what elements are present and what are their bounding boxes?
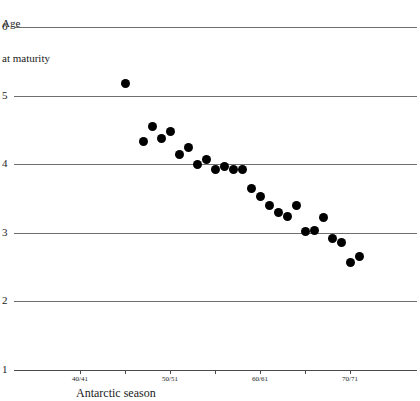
data-point [328,234,337,243]
data-point [337,238,346,247]
y-tick-label-2: 2 [2,294,14,306]
gridline-y-6 [14,27,417,28]
x-tick-label-70-71: 70/71 [342,375,358,383]
data-point [346,258,355,267]
plot-area: 654321 40/4150/5160/6170/71 [0,0,420,401]
x-tick-1960 [260,371,261,374]
data-point [202,155,211,164]
data-point [238,165,247,174]
x-tick-1950 [170,371,171,374]
chart-page: Age at maturity 654321 40/4150/5160/6170… [0,0,420,401]
data-point [193,160,202,169]
data-point [319,213,328,222]
data-point [355,252,364,261]
x-tick-1940 [80,371,81,374]
data-point [148,122,157,131]
data-point [310,226,319,235]
y-tick-label-5: 5 [2,89,14,101]
data-point [301,227,310,236]
y-tick-label-4: 4 [2,157,14,169]
data-point [229,165,238,174]
x-tick-label-40-41: 40/41 [72,375,88,383]
y-tick-label-1: 1 [2,363,14,375]
gridline-y-2 [14,301,417,302]
x-tick-label-60-61: 60/61 [252,375,268,383]
x-tick-1945 [125,371,126,374]
x-tick-1965 [305,371,306,374]
data-point [166,127,175,136]
data-point [139,137,148,146]
data-point [220,162,229,171]
x-tick-1955 [215,371,216,374]
data-point [175,150,184,159]
x-axis-title: Antarctic season [76,386,156,401]
data-point [247,184,256,193]
y-tick-label-3: 3 [2,226,14,238]
data-point [157,134,166,143]
x-tick-label-50-51: 50/51 [162,375,178,383]
gridline-y-5 [14,96,417,97]
data-point [274,208,283,217]
data-point [121,79,130,88]
data-point [283,212,292,221]
data-point [256,192,265,201]
y-tick-label-6: 6 [2,20,14,32]
data-point [211,165,220,174]
data-point [292,201,301,210]
gridline-y-3 [14,233,417,234]
data-point [265,201,274,210]
x-tick-1970 [350,371,351,374]
data-point [184,143,193,152]
